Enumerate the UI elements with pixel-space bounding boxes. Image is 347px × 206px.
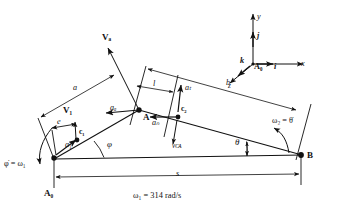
label-vector-V-1: V₁ <box>63 106 72 115</box>
label-unit-vector-i: i <box>274 63 276 71</box>
label-omega1: φ̇ = ω₁ <box>4 160 26 168</box>
crank-link-a <box>54 110 139 159</box>
omega1-curved-arrow <box>40 128 53 164</box>
ground-line <box>54 155 302 159</box>
figure-caption: ω₁ = 314 rad/s <box>133 191 181 200</box>
label-point-c2: c₂ <box>181 105 187 113</box>
node-A0-ground <box>51 155 56 160</box>
vector-v-CA <box>173 120 177 144</box>
label-point-A: A <box>143 113 150 122</box>
velocity-polygon-at-A0 <box>52 122 76 155</box>
figure-canvas: A₀ A B c₁ c₂ a b e l s φ θ φ̇ = ω₁ ω₂ = … <box>0 0 347 206</box>
node-c2 <box>176 115 181 120</box>
label-dimension-l: l <box>153 80 155 88</box>
label-vector-a-1: a₁ <box>65 141 72 149</box>
angle-arc-theta <box>247 142 248 157</box>
label-axis-z: z <box>228 83 231 90</box>
coordinate-triad <box>230 14 303 83</box>
label-angle-theta: θ <box>235 138 239 147</box>
label-axis-y: y <box>257 13 261 21</box>
label-point-B: B <box>307 151 313 160</box>
label-vector-V-A: Vₐ <box>102 33 111 42</box>
label-vector-a-n: aₙ <box>152 119 159 127</box>
vector-V-A <box>108 48 139 110</box>
crank-body-outline <box>38 118 54 159</box>
linkage-diagram-svg <box>0 0 347 206</box>
label-dimension-s: s <box>176 170 179 178</box>
dimension-a <box>41 75 114 117</box>
label-point-c1: c₁ <box>79 128 85 136</box>
label-vector-v-CA: vᴄᴀ <box>172 143 181 150</box>
label-vector-a-A: aₐ <box>110 104 117 112</box>
label-vector-a-t: aₜ <box>185 84 191 92</box>
label-axis-x: x <box>301 60 305 68</box>
node-A <box>136 107 141 112</box>
coupler-extension-lines <box>130 58 249 137</box>
label-unit-vector-j: j <box>257 32 259 40</box>
label-point-A0-ground: A₀ <box>44 189 53 198</box>
label-dimension-e: e <box>57 118 61 126</box>
angle-arc-phi <box>94 141 104 158</box>
label-triad-origin: A₀ <box>254 63 262 71</box>
node-c1 <box>75 138 80 143</box>
label-omega2: ω₂ = θ̇ <box>272 117 293 125</box>
label-angle-phi: φ <box>107 140 112 149</box>
label-dimension-a: a <box>73 84 77 92</box>
label-unit-vector-k: k <box>240 57 244 65</box>
